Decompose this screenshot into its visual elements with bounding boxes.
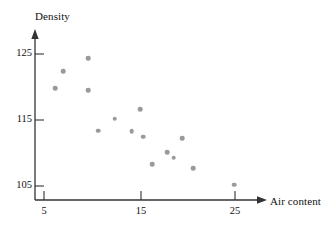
data-point xyxy=(232,182,237,187)
data-point xyxy=(150,162,155,167)
x-axis-arrow-icon xyxy=(257,196,267,203)
data-point xyxy=(191,166,196,171)
y-tick-label-125: 125 xyxy=(10,47,32,58)
data-point xyxy=(138,107,143,112)
data-point xyxy=(86,88,91,93)
data-point xyxy=(141,134,146,139)
scatter-plot-figure: Density Air content 125 115 105 5 15 25 xyxy=(0,0,330,229)
data-point xyxy=(61,69,66,74)
data-point xyxy=(112,116,117,121)
y-axis-title: Density xyxy=(35,10,70,22)
x-tick-label-15: 15 xyxy=(131,205,151,216)
data-point xyxy=(172,155,177,160)
data-point xyxy=(96,128,101,133)
data-point xyxy=(86,56,91,61)
y-tick-label-105: 105 xyxy=(10,179,32,190)
data-point xyxy=(165,150,170,155)
y-tick-label-115: 115 xyxy=(10,113,32,124)
x-tick-label-25: 25 xyxy=(225,205,245,216)
data-point xyxy=(130,129,135,134)
data-point xyxy=(53,86,58,91)
data-point xyxy=(180,136,185,141)
x-tick-label-5: 5 xyxy=(34,205,54,216)
y-axis-arrow-icon xyxy=(31,29,38,39)
x-axis-title: Air content xyxy=(270,195,321,207)
